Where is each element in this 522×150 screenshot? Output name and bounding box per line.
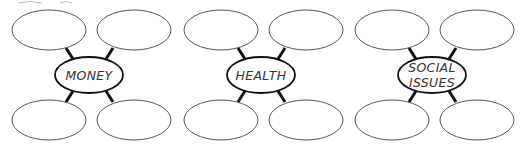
connector-line [278,48,285,59]
branch-bubble-bottom-left[interactable] [355,100,429,140]
connector-line [449,91,456,102]
spider-map-group: SOCIALISSUES [355,10,514,140]
topic-label: SOCIAL [408,60,456,75]
branch-bubble-top-right[interactable] [269,10,343,50]
edge-artifact [60,2,72,4]
branch-bubble-top-left[interactable] [355,10,429,50]
branch-bubble-bottom-left[interactable] [12,100,86,140]
branch-bubble-bottom-right[interactable] [97,100,171,140]
topic-label: MONEY [65,68,113,83]
connector-line [66,48,73,59]
connector-line [238,48,245,59]
branch-bubble-bottom-right[interactable] [269,100,343,140]
connector-line [106,91,113,102]
spider-map-group: HEALTH [184,10,343,140]
top-edge-artifacts [18,2,72,4]
topic-label: HEALTH [236,68,287,83]
connector-line [409,48,416,59]
topic-label: ISSUES [409,75,455,90]
branch-bubble-top-left[interactable] [12,10,86,50]
branch-bubble-top-right[interactable] [440,10,514,50]
connector-line [66,91,73,102]
branch-bubble-bottom-right[interactable] [440,100,514,140]
spider-diagrams: MONEYHEALTHSOCIALISSUES [0,0,522,150]
connector-line [449,48,456,59]
edge-artifact [18,2,42,4]
connector-line [238,91,245,102]
branch-bubble-top-left[interactable] [184,10,258,50]
branch-bubble-top-right[interactable] [97,10,171,50]
connector-line [106,48,113,59]
connector-line [278,91,285,102]
connector-line [409,91,416,102]
branch-bubble-bottom-left[interactable] [184,100,258,140]
spider-map-group: MONEY [12,10,171,140]
